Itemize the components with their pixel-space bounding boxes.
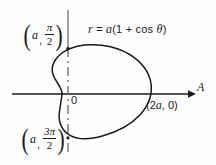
horizontal-axis-label: A [197, 81, 204, 93]
horizontal-axis-arrowhead [188, 90, 196, 98]
origin-label: 0 [71, 95, 77, 106]
fraction-denominator-bottom: 2 [46, 139, 54, 151]
fraction-numerator-bottom: 3π [43, 126, 56, 138]
polar-bottom-radius: a [30, 133, 36, 145]
point-label-a-pi-over-2: ( a , π 2 ) [22, 22, 64, 47]
equation-annotation: r = a(1 + cos θ) [88, 23, 167, 35]
polar-top-comma: , [39, 35, 42, 47]
point-marker-a-3pi-over-2 [66, 136, 69, 139]
point-2a-rest: , 0) [162, 99, 178, 111]
fraction-denominator-top: 2 [46, 35, 54, 47]
equation-body: (1 + cos [112, 23, 156, 35]
right-paren-bottom: ) [57, 127, 64, 151]
equation-equals: = [93, 23, 106, 35]
fraction-pi-over-2: π 2 [45, 22, 54, 47]
cardioid-curve [52, 45, 151, 139]
point-label-a-3pi-over-2: ( a , 3π 2 ) [20, 126, 66, 151]
fraction-numerator-top: π [46, 22, 54, 34]
right-paren-top: ) [55, 23, 62, 47]
polar-cardioid-figure: r = a(1 + cos θ) 0 A (2a, 0) ( a , π 2 )… [0, 0, 216, 165]
polar-bottom-comma: , [37, 139, 40, 151]
left-paren-top: ( [23, 23, 30, 47]
point-marker-a-pi-over-2 [66, 47, 70, 51]
point-label-2a-0: (2a, 0) [146, 99, 178, 111]
equation-close-paren: ) [163, 23, 167, 35]
left-paren-bottom: ( [21, 127, 28, 151]
fraction-3pi-over-2: 3π 2 [43, 126, 56, 151]
polar-top-radius: a [32, 29, 38, 41]
